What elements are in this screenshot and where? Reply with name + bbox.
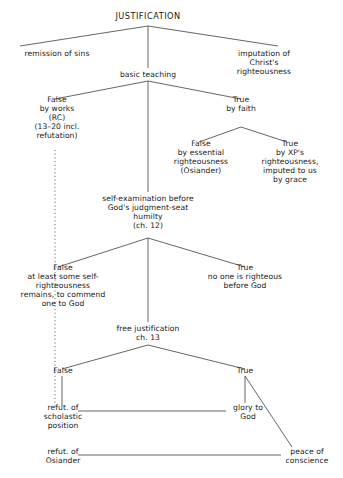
edge-justification-imputation <box>148 26 278 46</box>
edge-self-examination-true-none-righteous <box>148 238 245 267</box>
edge-free-justification-false-ch13 <box>62 345 148 369</box>
node-false-by-works-rc: False by works (RC) (13–20 incl. refutat… <box>34 96 79 141</box>
node-false-by-essential-righteousness-osiander: False by essential righteousness (Osiand… <box>174 140 228 176</box>
edge-justification-remission <box>20 26 148 46</box>
node-true-ch13: True <box>237 367 253 376</box>
node-peace-of-conscience: peace of conscience <box>286 448 329 466</box>
justification-diagram: JUSTIFICATION remission of sins imputati… <box>0 0 343 478</box>
node-false-ch13: False <box>53 367 72 376</box>
node-self-examination-before-gods-judgment-seat: self-examination before God's judgment-s… <box>102 195 194 231</box>
node-free-justification-ch13: free justification ch. 13 <box>117 325 180 343</box>
node-basic-teaching: basic teaching <box>120 71 176 80</box>
node-glory-to-god: glory to God <box>233 404 263 422</box>
node-true-by-faith: True by faith <box>226 96 256 114</box>
node-refutation-of-scholastic-position: refut. of scholastic position <box>44 404 82 431</box>
node-justification: JUSTIFICATION <box>115 12 180 22</box>
node-false-some-self-righteousness-remains: False at least some self- righteousness … <box>21 264 106 309</box>
node-true-no-one-is-righteous-before-god: True no one is righteous before God <box>208 264 282 291</box>
edge-free-justification-true-ch13 <box>148 345 245 369</box>
node-remission-of-sins: remission of sins <box>25 50 90 59</box>
node-true-by-xps-righteousness: True by XP's righteousness, imputed to u… <box>262 140 319 185</box>
node-imputation-of-christs-righteousness: imputation of Christ's righteousness <box>225 50 304 77</box>
node-refutation-of-osiander: refut. of Osiander <box>46 448 81 466</box>
